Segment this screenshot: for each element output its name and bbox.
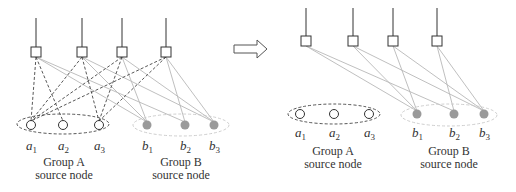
edge-to-group-b <box>306 46 454 111</box>
edge-to-group-b <box>437 46 454 111</box>
group-a-title: Group A <box>43 155 85 169</box>
group-a-subtitle: source node <box>304 157 362 171</box>
edge-to-group-b <box>82 57 214 122</box>
edge-to-group-b <box>166 57 185 122</box>
source-node-b3 <box>480 110 489 119</box>
transform-arrow-icon <box>234 40 267 58</box>
source-node-a2 <box>330 110 339 119</box>
right-edges <box>306 46 484 111</box>
node-label-b3: b3 <box>479 125 491 142</box>
node-label-b3: b3 <box>209 138 221 155</box>
source-node-a1 <box>296 110 305 119</box>
node-label-a2: a2 <box>329 125 340 142</box>
group-b-title: Group B <box>428 144 470 158</box>
group-b-subtitle: source node <box>152 168 210 182</box>
node-label-b2: b2 <box>449 125 460 142</box>
dashed-edge-to-group-a <box>31 57 82 121</box>
right-diagram-after: a1a2a3b1b2b3Group Asource nodeGroup Bsou… <box>288 8 497 171</box>
relay-square-node-4 <box>432 36 442 46</box>
relay-square-node-3 <box>117 47 127 57</box>
source-node-b2 <box>450 110 459 119</box>
edge-to-group-b <box>393 46 417 111</box>
edge-to-group-b <box>122 57 214 122</box>
relay-square-node-2 <box>348 36 358 46</box>
source-node-a2 <box>59 121 68 130</box>
node-label-b1: b1 <box>142 138 153 155</box>
edge-to-group-b <box>166 57 214 122</box>
node-label-b1: b1 <box>412 125 423 142</box>
group-a-title: Group A <box>312 144 354 158</box>
node-label-a1: a1 <box>26 138 37 155</box>
right-arrow-icon <box>234 40 267 58</box>
network-transformation-diagram: a1a2a3b1b2b3Group Asource nodeGroup Bsou… <box>0 0 516 192</box>
edge-to-group-b <box>306 46 417 111</box>
dashed-edge-to-group-a <box>31 57 166 121</box>
relay-square-node-1 <box>301 36 311 46</box>
node-label-a3: a3 <box>94 138 106 155</box>
node-label-a1: a1 <box>295 125 306 142</box>
dashed-edge-to-group-a <box>31 57 36 121</box>
source-node-b3 <box>210 121 219 130</box>
relay-square-node-1 <box>31 47 41 57</box>
edge-to-group-b <box>122 57 147 122</box>
source-node-b1 <box>413 110 422 119</box>
relay-square-node-3 <box>388 36 398 46</box>
source-node-b1 <box>143 121 152 130</box>
relay-square-node-4 <box>161 47 171 57</box>
group-b-title: Group B <box>160 155 202 169</box>
source-node-a3 <box>95 121 104 130</box>
group-b-subtitle: source node <box>420 157 478 171</box>
source-node-a1 <box>27 121 36 130</box>
relay-square-node-2 <box>77 47 87 57</box>
left-diagram-before: a1a2a3b1b2b3Group Asource nodeGroup Bsou… <box>17 18 229 182</box>
left-edges <box>31 57 214 122</box>
source-node-b2 <box>181 121 190 130</box>
source-node-a3 <box>365 110 374 119</box>
edge-to-group-b <box>36 57 185 122</box>
edge-to-group-b <box>353 46 484 111</box>
edge-to-group-b <box>437 46 484 111</box>
group-a-subtitle: source node <box>35 168 93 182</box>
edge-to-group-b <box>393 46 484 111</box>
node-label-a2: a2 <box>58 138 69 155</box>
node-label-b2: b2 <box>180 138 191 155</box>
node-label-a3: a3 <box>364 125 376 142</box>
